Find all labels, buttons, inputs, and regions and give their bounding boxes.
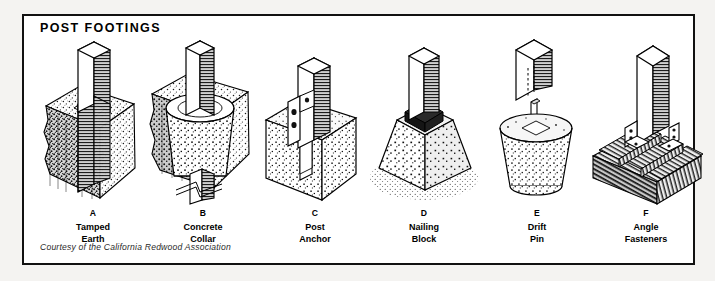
figure-d-nailing-block [369,28,479,208]
figure-d-name: Nailing Block [364,222,484,245]
nailing-block-pier-icon [369,28,479,208]
figure-b-letter: B [143,208,263,218]
figure-a-letter: A [33,208,153,218]
figure-e-letter: E [477,208,597,218]
figure-c-caption: C Post Anchor [255,208,375,245]
figure-b-concrete-collar [148,28,258,208]
figure-c-letter: C [255,208,375,218]
credit-line: Courtesy of the California Redwood Assoc… [40,242,231,252]
figure-e-name: Drift Pin [477,222,597,245]
figure-c-name: Post Anchor [255,222,375,245]
figure-e-caption: E Drift Pin [477,208,597,245]
figure-c-post-anchor [260,28,370,208]
figure-b-caption: B Concrete Collar [143,208,263,245]
angle-fastener-deck-icon [589,28,709,208]
figure-d-letter: D [364,208,484,218]
drift-pin-pier-icon [482,28,592,208]
post-in-tamped-earth-icon [38,28,148,208]
illustration-plate: POST FOOTINGS [22,14,695,265]
figure-a-caption: A Tamped Earth [33,208,153,245]
post-with-concrete-collar-icon [148,28,258,208]
figure-e-drift-pin [482,28,592,208]
figure-a-tamped-earth [38,28,148,208]
figure-f-letter: F [586,208,706,218]
figure-f-caption: F Angle Fasteners [586,208,706,245]
metal-post-anchor-icon [260,28,370,208]
figure-d-caption: D Nailing Block [364,208,484,245]
figure-f-name: Angle Fasteners [586,222,706,245]
figure-f-angle-fasteners [589,28,709,208]
